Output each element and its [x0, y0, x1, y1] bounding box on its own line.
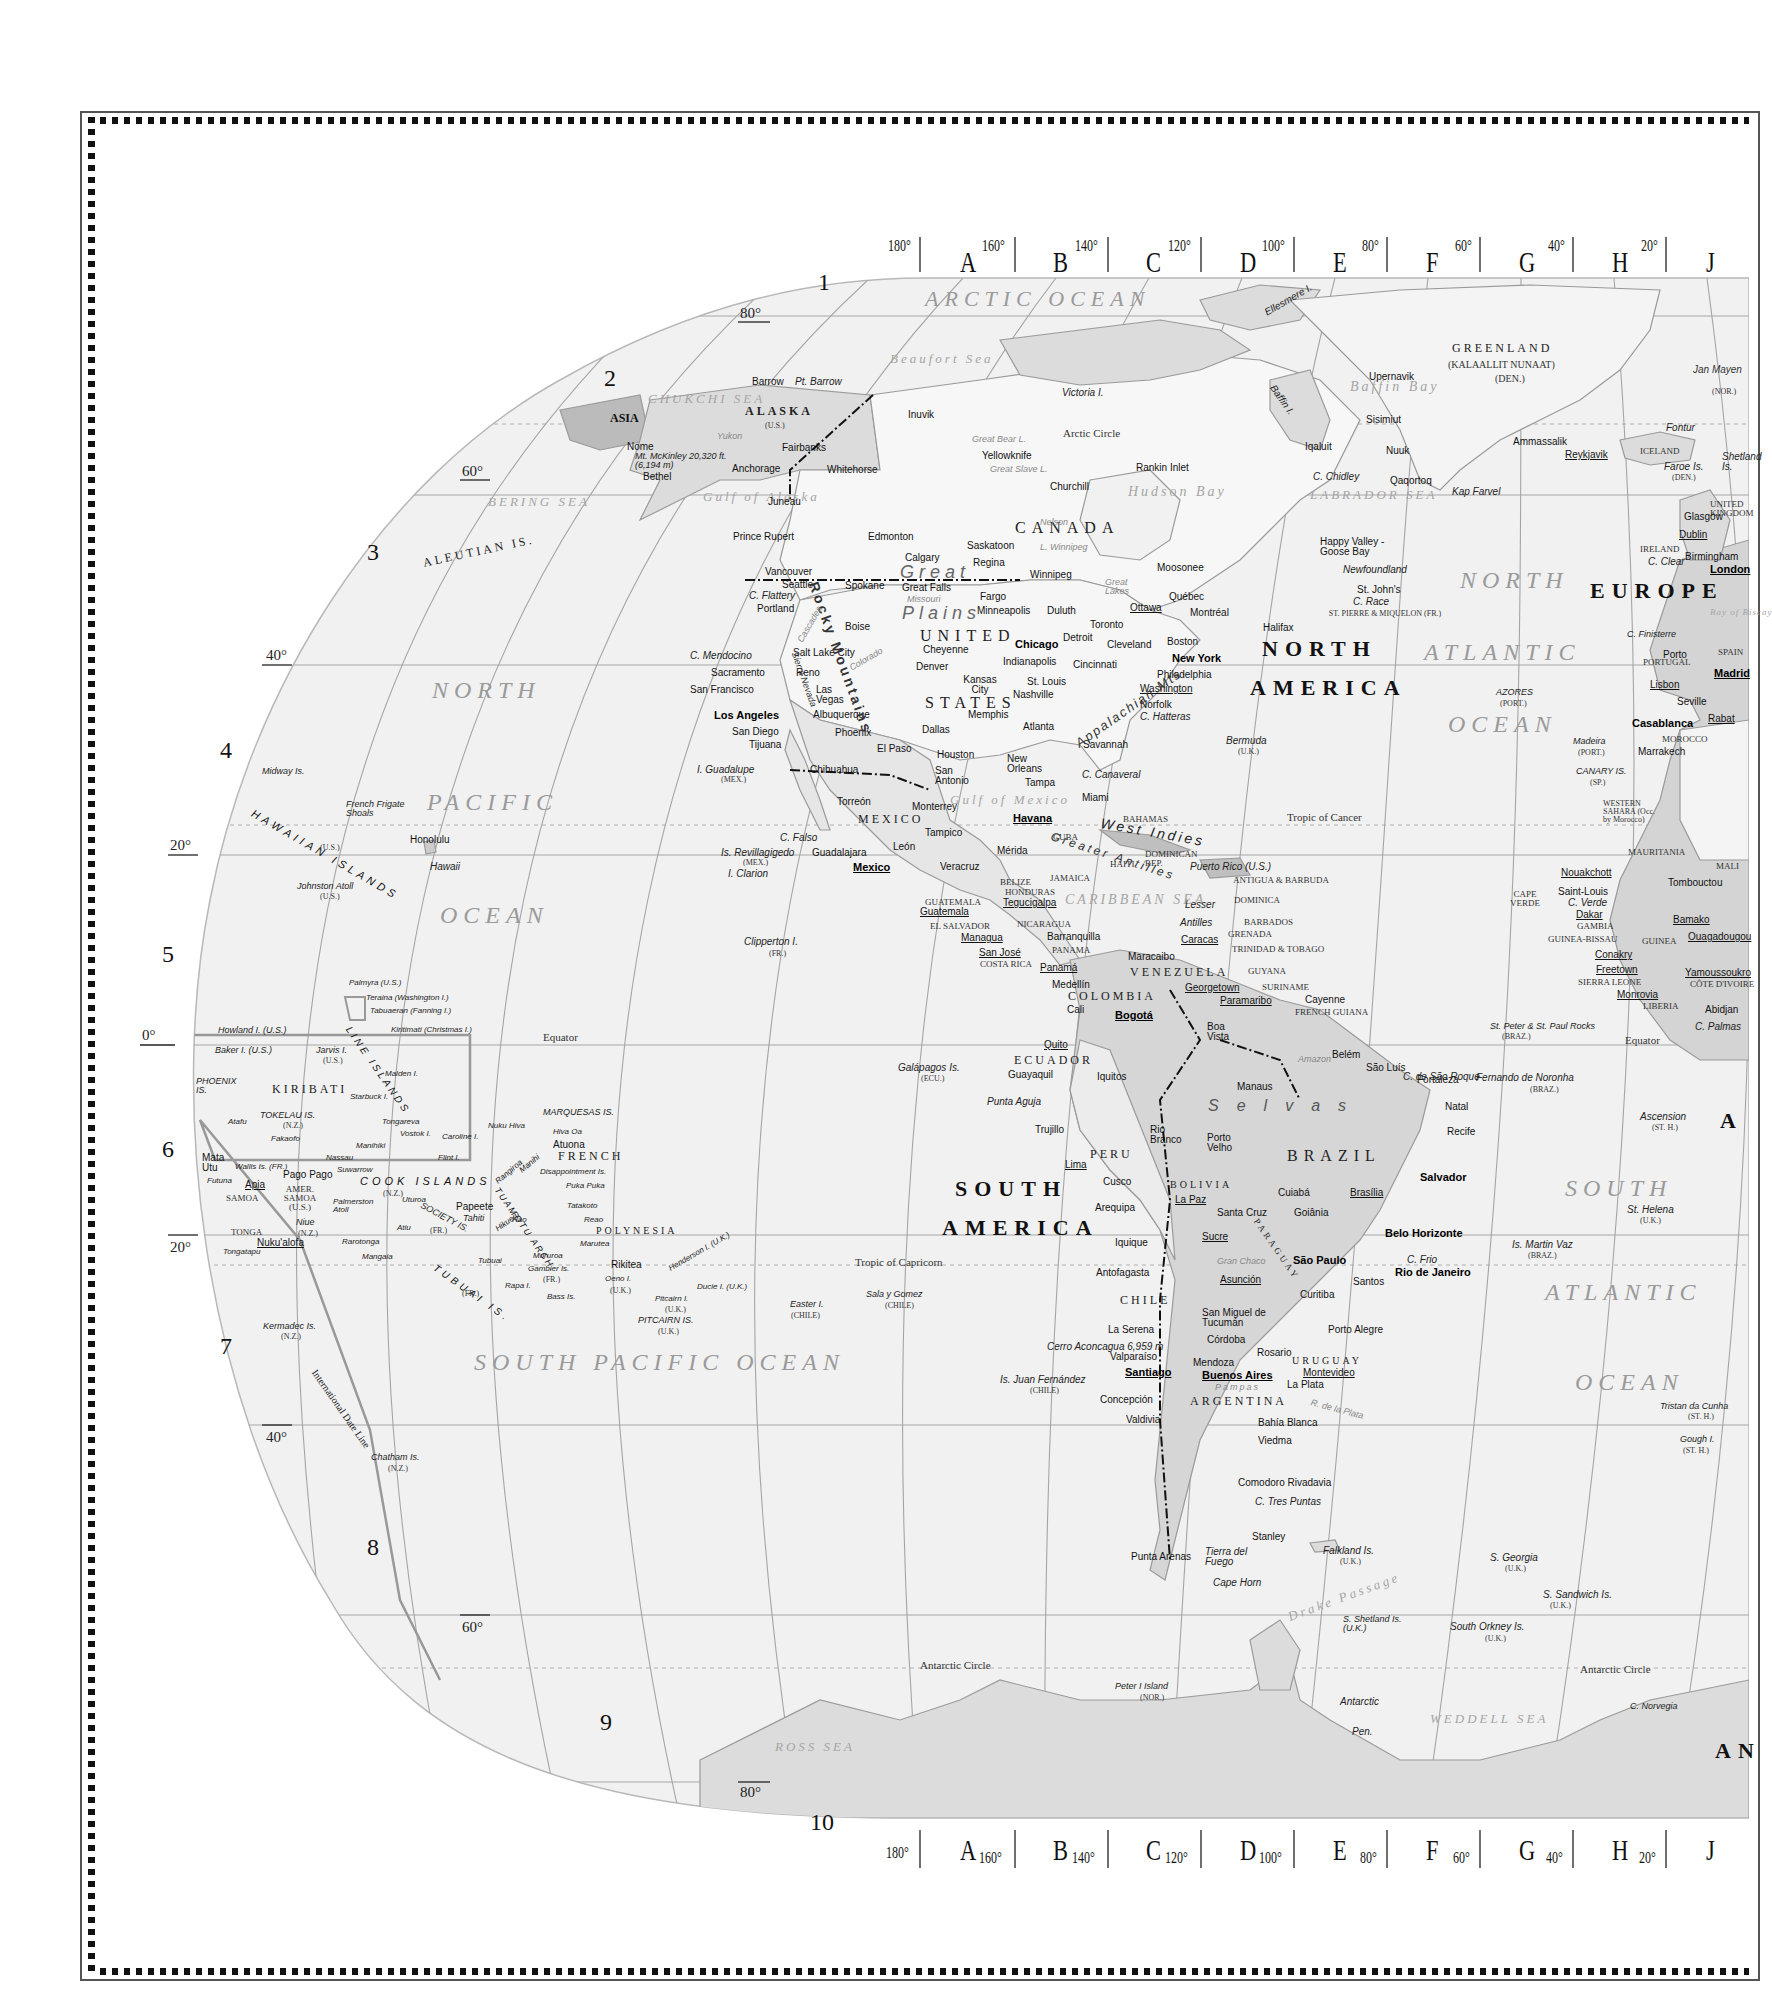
city-ouagadougou: Ouagadougou: [1688, 932, 1751, 942]
city-atlanta: Atlanta: [1023, 722, 1054, 732]
city-concepcion: Concepción: [1100, 1395, 1153, 1405]
feature-gough-sth: (ST. H.): [1683, 1447, 1709, 1455]
feature-pt-barrow: Pt. Barrow: [795, 377, 842, 387]
feature-jan-mayen-nor: (NOR.): [1712, 388, 1736, 396]
city-cleveland: Cleveland: [1107, 640, 1151, 650]
grid-col-g-bottom: G: [1519, 1835, 1535, 1865]
city-belo-horizonte: Belo Horizonte: [1385, 1228, 1463, 1239]
sea-ross: ROSS SEA: [775, 1740, 855, 1753]
feature-peter-i: Peter I Island: [1115, 1682, 1168, 1691]
country-spain: SPAIN: [1718, 648, 1743, 657]
city-new-orleans: New Orleans: [1007, 754, 1052, 774]
sea-labrador: LABRADOR SEA: [1310, 488, 1437, 501]
feature-c-tres-puntas: C. Tres Puntas: [1255, 1497, 1321, 1507]
feature-rarotonga: Rarotonga: [342, 1238, 379, 1246]
city-denver: Denver: [916, 662, 948, 672]
city-vancouver: Vancouver: [765, 567, 812, 577]
grid-row-10: 10: [810, 1810, 834, 1834]
feature-shetland: Shetland Is.: [1722, 452, 1748, 472]
feature-c-clear: C. Clear: [1648, 557, 1685, 567]
feature-reao: Reao: [584, 1216, 603, 1224]
city-merida: Mérida: [997, 846, 1028, 856]
country-sierra-leone: SIERRA LEONE: [1578, 978, 1641, 987]
sea-bering: BERING SEA: [488, 495, 590, 508]
feature-flint: Flint I.: [438, 1154, 460, 1162]
city-tucuman: San Miguel de Tucumán: [1202, 1308, 1267, 1328]
feature-clipperton-fr: (FR.): [769, 950, 786, 958]
city-tampa: Tampa: [1025, 778, 1055, 788]
feature-madeira-port: (PORT.): [1578, 749, 1605, 757]
city-saskatoon: Saskatoon: [967, 541, 1014, 551]
city-honolulu: Honolulu: [410, 835, 449, 845]
feature-howland: Howland I. (U.S.): [218, 1026, 287, 1035]
feature-palmyra: Palmyra (U.S.): [349, 979, 401, 987]
feature-galapagos: Galápagos Is.: [898, 1063, 960, 1073]
city-inuvik: Inuvik: [908, 410, 934, 420]
feature-revillagigedo-mex: (MEX.): [743, 859, 768, 867]
city-birmingham: Birmingham: [1685, 552, 1738, 562]
feature-gran-chaco: Gran Chaco: [1217, 1257, 1266, 1266]
city-yamoussoukro: Yamoussoukro: [1685, 968, 1751, 978]
city-atuona: Atuona: [553, 1140, 585, 1150]
country-brazil: BRAZIL: [1287, 1148, 1381, 1164]
city-antofagasta: Antofagasta: [1096, 1268, 1149, 1278]
grid-deg-bottom-140: 140°: [1072, 1850, 1095, 1866]
label-antarctic-circle-east: Antarctic Circle: [1580, 1664, 1651, 1675]
city-punta-arenas: Punta Arenas: [1131, 1552, 1191, 1562]
grid-col-f-bottom: F: [1426, 1835, 1439, 1865]
feature-hawaii: Hawaii: [430, 862, 460, 872]
feature-oeno-uk: (U.K.): [610, 1287, 631, 1295]
city-belem: Belém: [1332, 1050, 1360, 1060]
city-san-diego: San Diego: [732, 727, 779, 737]
ocean-north-atlantic-2: ATLANTIC: [1424, 640, 1580, 664]
feature-mururoa: Mururoa: [533, 1252, 563, 1260]
feature-pitcairn-is: PITCAIRN IS.: [638, 1316, 694, 1325]
city-medellin: Medellín: [1052, 980, 1090, 990]
grid-row-5: 5: [162, 942, 174, 966]
feature-marutea: Marutea: [580, 1240, 609, 1248]
city-bamako: Bamako: [1673, 915, 1710, 925]
city-los-angeles: Los Angeles: [714, 710, 779, 721]
feature-tristan-sth: (ST. H.): [1688, 1413, 1714, 1421]
feature-madeira: Madeira: [1573, 737, 1606, 746]
feature-wallis: Wallis Is. (FR.): [235, 1163, 287, 1171]
feature-newfoundland: Newfoundland: [1343, 565, 1407, 575]
city-casablanca: Casablanca: [1632, 718, 1693, 729]
feature-mangaia: Mangaia: [362, 1253, 393, 1261]
city-goiania: Goiânia: [1294, 1208, 1328, 1218]
grid-deg-bottom-120: 120°: [1165, 1850, 1188, 1866]
city-tijuana: Tijuana: [749, 740, 781, 750]
city-barrow: Barrow: [752, 377, 784, 387]
feature-marquesas: MARQUESAS IS.: [543, 1108, 614, 1117]
feature-puka-puka: Puka Puka: [566, 1182, 605, 1190]
city-yellowknife: Yellowknife: [982, 451, 1032, 461]
feature-phoenix: PHOENIX IS.: [196, 1077, 236, 1095]
city-guayaquil: Guayaquil: [1008, 1070, 1053, 1080]
feature-vostok: Vostok I.: [400, 1130, 431, 1138]
ocean-south-atlantic-1: SOUTH: [1565, 1176, 1672, 1200]
city-sisimiut: Sisimiut: [1366, 415, 1401, 425]
continent-north-america-1: NORTH: [1262, 638, 1377, 660]
feature-i-guadalupe-mex: (MEX.): [721, 776, 746, 784]
label-tropic-cancer: Tropic of Cancer: [1287, 812, 1362, 823]
feature-easter: Easter I.: [790, 1300, 824, 1309]
city-montevideo: Montevideo: [1303, 1368, 1355, 1378]
river-yukon: Yukon: [717, 432, 742, 441]
feature-manihiki: Manihiki: [356, 1142, 385, 1150]
city-manaus: Manaus: [1237, 1082, 1273, 1092]
city-rosario: Rosario: [1257, 1348, 1291, 1358]
sea-weddell: WEDDELL SEA: [1430, 1712, 1548, 1725]
country-mexico: MEXICO: [858, 813, 923, 825]
grid-col-c-bottom: C: [1146, 1835, 1161, 1865]
city-valdivia: Valdivia: [1126, 1415, 1160, 1425]
city-santos: Santos: [1353, 1277, 1384, 1287]
feature-i-clarion: I. Clarion: [728, 869, 768, 879]
feature-johnston: Johnston Atoll: [297, 882, 353, 891]
city-st-johns: St. John's: [1357, 585, 1401, 595]
country-panama: PANAMA: [1052, 946, 1090, 955]
city-comodoro: Comodoro Rivadavia: [1238, 1478, 1331, 1488]
country-greenland: GREENLAND: [1452, 342, 1552, 354]
country-peru: PERU: [1090, 1148, 1133, 1160]
feature-c-canaveral: C. Canaveral: [1082, 770, 1140, 780]
country-venezuela: VENEZUELA: [1130, 966, 1228, 978]
